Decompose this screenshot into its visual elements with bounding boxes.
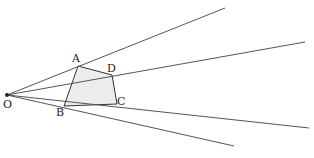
ray-OA [7,8,225,95]
geometry-figure [0,0,314,158]
ray-OD [7,42,305,95]
origin-point [5,93,9,97]
label-O: O [3,99,12,110]
ray-OC [7,95,309,128]
diagram-canvas: O A D C B [0,0,314,158]
label-B: B [56,107,64,118]
label-D: D [107,63,116,74]
label-A: A [72,53,80,64]
label-C: C [117,96,125,107]
